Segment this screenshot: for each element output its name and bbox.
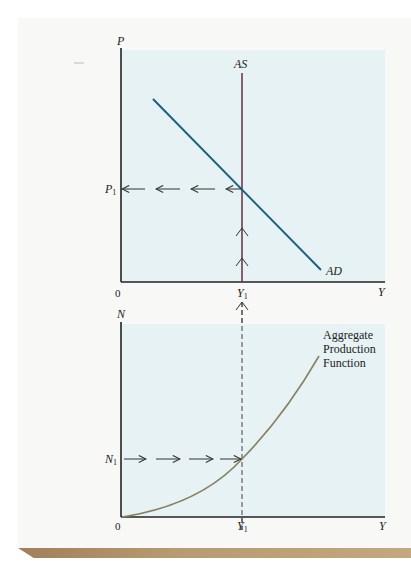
- as-label: AS: [233, 57, 247, 71]
- y-axis-label: P: [116, 34, 125, 48]
- ad-label: AD: [325, 264, 342, 278]
- production-function-chart: N N1 0 Y1 Y Aggregate Production Functio…: [104, 302, 387, 534]
- figure: P AS AD Y 0 P1 Y1 N: [0, 0, 411, 568]
- plot-area: [121, 50, 385, 282]
- y1-label-top: Y1: [237, 286, 248, 301]
- curve-label-line-2: Production: [323, 342, 376, 356]
- origin-label: 0: [115, 287, 121, 299]
- curve-label-line-3: Function: [323, 356, 366, 370]
- p1-label: P1: [104, 182, 116, 197]
- n1-label: N1: [104, 452, 117, 467]
- y-axis-label: N: [116, 307, 126, 321]
- y1-label-bottom: Y1: [237, 519, 248, 534]
- ad-as-chart: P AS AD Y 0 P1 Y1: [104, 34, 386, 301]
- x-axis-label: Y: [379, 519, 387, 533]
- origin-label: 0: [115, 520, 121, 532]
- x-axis-label: Y: [378, 285, 386, 299]
- curve-label-line-1: Aggregate: [323, 328, 373, 342]
